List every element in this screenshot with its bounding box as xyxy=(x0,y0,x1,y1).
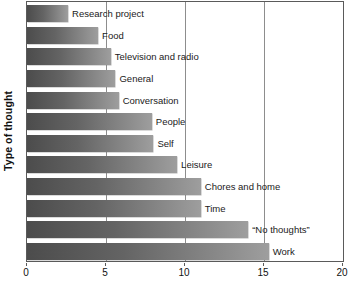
x-tick-label: 20 xyxy=(336,267,347,278)
bar-row: Food xyxy=(27,27,343,44)
bar-label: Leisure xyxy=(177,156,212,173)
bar-label: “No thoughts” xyxy=(248,221,310,238)
bar[interactable] xyxy=(27,48,111,65)
bar-row: Work xyxy=(27,243,343,260)
x-tick-mark xyxy=(184,263,185,266)
x-tick-label: 15 xyxy=(257,267,268,278)
bar[interactable] xyxy=(27,113,152,130)
x-axis: 05101520 xyxy=(26,263,344,283)
y-axis-title: Type of thought xyxy=(0,0,17,262)
bar[interactable] xyxy=(27,135,153,152)
plot-area: Research projectFoodTelevision and radio… xyxy=(26,1,344,262)
bar[interactable] xyxy=(27,70,115,87)
bar[interactable] xyxy=(27,5,68,22)
bar[interactable] xyxy=(27,200,201,217)
plot-inner: Research projectFoodTelevision and radio… xyxy=(27,2,343,261)
bar-row: Chores and home xyxy=(27,178,343,195)
bar-label: Television and radio xyxy=(111,48,199,65)
x-tick-mark xyxy=(263,263,264,266)
bar-label: Food xyxy=(98,27,124,44)
bar-row: People xyxy=(27,113,343,130)
bar[interactable] xyxy=(27,92,119,109)
bar-row: Research project xyxy=(27,5,343,22)
x-tick-mark xyxy=(105,263,106,266)
bar-row: General xyxy=(27,70,343,87)
bar-label: Chores and home xyxy=(201,178,281,195)
bar-row: Leisure xyxy=(27,156,343,173)
bar-row: “No thoughts” xyxy=(27,221,343,238)
bar-label: Conversation xyxy=(119,92,179,109)
bar[interactable] xyxy=(27,243,269,260)
x-tick-mark xyxy=(26,263,27,266)
bar-chart: Type of thought Research projectFoodTele… xyxy=(0,0,352,284)
bar[interactable] xyxy=(27,178,201,195)
bar-label: Work xyxy=(269,243,295,260)
bar[interactable] xyxy=(27,156,177,173)
bar-row: Conversation xyxy=(27,92,343,109)
x-tick-label: 10 xyxy=(178,267,189,278)
bar-row: Time xyxy=(27,200,343,217)
bar-label: People xyxy=(152,113,186,130)
bar-label: Research project xyxy=(68,5,144,22)
x-tick-mark xyxy=(342,263,343,266)
bar[interactable] xyxy=(27,27,98,44)
x-tick-label: 5 xyxy=(102,267,108,278)
bar-row: Television and radio xyxy=(27,48,343,65)
y-axis-title-text: Type of thought xyxy=(2,91,14,171)
bar-label: General xyxy=(115,70,153,87)
x-tick-label: 0 xyxy=(23,267,29,278)
bar-label: Self xyxy=(153,135,173,152)
bar[interactable] xyxy=(27,221,248,238)
bar-row: Self xyxy=(27,135,343,152)
bar-label: Time xyxy=(201,200,226,217)
